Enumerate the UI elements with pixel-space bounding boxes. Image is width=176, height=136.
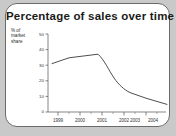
y-tick-label: 50 [39,32,44,37]
y-axis-ticks [46,34,49,112]
y-tick-label: 40 [39,47,44,52]
screenshot-root: Percentage of sales over time % of marke… [0,0,176,136]
x-axis-tick-labels: 1999 2000 2001 2002 2003 2004 [53,118,159,123]
series-line-market-share [52,54,167,104]
x-tick-label: 2001 [97,118,108,123]
y-tick-label: 0 [42,109,45,114]
chart-card: Percentage of sales over time % of marke… [5,3,170,127]
y-axis-tick-labels: 0 10 20 30 40 50 [39,32,44,115]
x-tick-label: 2004 [148,118,159,123]
x-tick-label: 1999 [53,118,64,123]
x-tick-label: 2002 [119,118,130,123]
line-chart-svg: 0 10 20 30 40 50 [6,26,171,126]
plot-area: 0 10 20 30 40 50 [6,26,171,126]
x-tick-label: 2000 [75,118,86,123]
y-tick-label: 20 [39,78,44,83]
x-axis-ticks [58,112,157,116]
page-title: Percentage of sales over time [6,10,171,22]
y-tick-label: 10 [39,94,44,99]
x-tick-label: 2003 [130,118,141,123]
y-tick-label: 30 [39,63,44,68]
